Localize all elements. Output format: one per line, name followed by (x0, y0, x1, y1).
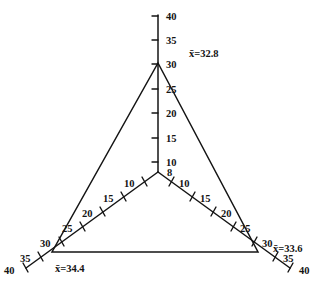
top-axis-mean-label: x̄=32.8 (189, 48, 219, 59)
lower-left-axis-tick-10 (142, 177, 147, 186)
lower-right-axis-tick-label-10: 10 (179, 178, 190, 189)
lower-right-axis-tick-10 (169, 177, 174, 186)
lower-right-axis-tick-label-35: 35 (283, 253, 294, 264)
chart-canvas: 40 35 30 25 20 15 10 8 x̄=32.8 10 15 20 … (0, 0, 322, 294)
lower-left-axis-tick-label-20: 20 (82, 208, 93, 219)
top-axis-tick-label-15: 15 (166, 133, 177, 144)
lower-right-axis-group: 10 15 20 25 30 35 40 x̄=33.6 (158, 172, 310, 276)
data-triangle (52, 63, 258, 252)
triangular-glyph-chart: 40 35 30 25 20 15 10 8 x̄=32.8 10 15 20 … (0, 0, 322, 294)
lower-left-axis-tick-label-10: 10 (124, 178, 135, 189)
lower-right-axis-tick-label-20: 20 (221, 208, 232, 219)
top-axis-group: 40 35 30 25 20 15 10 8 x̄=32.8 (152, 11, 219, 178)
lower-right-axis-mean-label: x̄=33.6 (273, 243, 303, 254)
lower-right-axis-tick-label-15: 15 (200, 193, 211, 204)
lower-left-axis-tick-label-40: 40 (4, 265, 15, 276)
lower-left-axis-mean-label: x̄=34.4 (55, 263, 85, 274)
top-axis-origin-label-8: 8 (167, 167, 172, 178)
top-axis-tick-label-30: 30 (166, 59, 177, 70)
top-axis-tick-label-40: 40 (166, 11, 177, 22)
lower-left-axis-tick-label-35: 35 (20, 253, 31, 264)
lower-left-axis-line (26, 172, 158, 268)
top-axis-tick-label-20: 20 (166, 108, 177, 119)
lower-right-axis-tick-label-30: 30 (262, 238, 273, 249)
lower-left-axis-tick-label-15: 15 (103, 193, 114, 204)
lower-left-axis-group: 10 15 20 25 30 35 40 x̄=34.4 (4, 172, 158, 276)
lower-right-axis-tick-label-40: 40 (299, 265, 310, 276)
data-triangle-group (52, 63, 258, 252)
lower-left-axis-tick-label-30: 30 (40, 238, 51, 249)
top-axis-tick-label-35: 35 (166, 35, 177, 46)
